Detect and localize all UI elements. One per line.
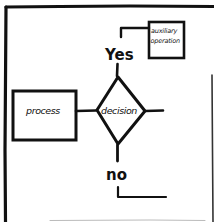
frame-left-line [5, 7, 6, 222]
process-to-decision-connector [76, 111, 96, 112]
process-label: process [25, 105, 60, 116]
yes-branch-label: Yes [104, 46, 134, 64]
decision-right-exit-line [145, 111, 163, 112]
frame-bottom-line [50, 220, 205, 221]
auxiliary-label-line2: operation [151, 37, 180, 45]
frame-right-line [212, 75, 213, 222]
no-branch-exit-line [118, 187, 166, 197]
flowchart-canvas: auxiliary operation Yes process decision… [0, 0, 214, 222]
decision-node[interactable]: decision [97, 77, 145, 144]
yes-to-auxiliary-connector [121, 28, 149, 37]
auxiliary-label-line1: auxiliary [151, 27, 177, 35]
frame-top-line [6, 6, 214, 7]
no-branch-label: no [106, 166, 127, 184]
decision-label: decision [101, 105, 137, 116]
process-node[interactable]: process [13, 91, 76, 140]
decision-to-yes-line [117, 64, 118, 76]
auxiliary-operation-node[interactable]: auxiliary operation [149, 22, 184, 58]
